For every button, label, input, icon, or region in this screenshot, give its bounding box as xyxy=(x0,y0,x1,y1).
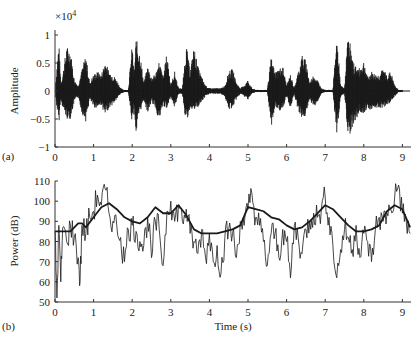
waveform-y-tick-label: 0 xyxy=(45,85,51,97)
waveform-x-tick-label: 2 xyxy=(129,151,135,163)
waveform-y-tick-label: 0.5 xyxy=(36,57,50,69)
power-x-tick-label: 8 xyxy=(361,306,367,318)
power-y-tick-label: 70 xyxy=(39,256,51,268)
waveform-x-tick-label: 0 xyxy=(52,151,58,163)
power-y-axis-label: Power (dB) xyxy=(8,215,21,266)
power-x-tick-label: 5 xyxy=(245,306,251,318)
figure: 10.50−0.5−1 0123456789 ×104 Amplitude (a… xyxy=(0,0,420,344)
waveform-plot-area xyxy=(55,41,410,133)
power-x-tick-label: 2 xyxy=(129,306,135,318)
power-plot-area xyxy=(55,184,410,298)
waveform-y-ticks: 10.50−0.5−1 xyxy=(30,29,58,153)
waveform-x-tick-label: 7 xyxy=(322,151,328,163)
waveform-panel: 10.50−0.5−1 0123456789 ×104 Amplitude (a… xyxy=(2,9,411,163)
waveform-x-tick-label: 9 xyxy=(400,151,406,163)
power-x-tick-label: 0 xyxy=(52,306,58,318)
waveform-y-tick-label: 1 xyxy=(45,29,51,41)
waveform-x-tick-label: 6 xyxy=(284,151,290,163)
panel-b-label: (b) xyxy=(2,320,15,333)
power-x-tick-label: 4 xyxy=(207,306,213,318)
power-instantaneous-line xyxy=(55,184,410,298)
waveform-x-tick-label: 1 xyxy=(91,151,97,163)
power-y-tick-label: 80 xyxy=(39,236,51,248)
waveform-x-tick-label: 5 xyxy=(245,151,251,163)
power-x-tick-label: 1 xyxy=(91,306,97,318)
waveform-y-axis-label: Amplitude xyxy=(8,67,20,114)
power-x-tick-label: 6 xyxy=(284,306,290,318)
power-x-tick-label: 9 xyxy=(400,306,406,318)
power-y-tick-label: 60 xyxy=(39,276,51,288)
power-y-tick-label: 50 xyxy=(39,296,51,308)
waveform-y-tick-label: −1 xyxy=(38,141,50,153)
waveform-x-tick-label: 4 xyxy=(207,151,213,163)
waveform-y-tick-label: −0.5 xyxy=(30,113,50,125)
waveform-x-tick-label: 3 xyxy=(168,151,174,163)
power-x-tick-label: 7 xyxy=(322,306,328,318)
power-x-tick-label: 3 xyxy=(168,306,174,318)
power-y-tick-label: 100 xyxy=(34,195,51,207)
power-y-tick-label: 110 xyxy=(34,175,51,187)
power-y-tick-label: 90 xyxy=(39,215,51,227)
power-panel: 1101009080706050 0123456789 Power (dB) T… xyxy=(2,175,411,333)
power-x-axis-label: Time (s) xyxy=(214,320,252,333)
waveform-x-tick-label: 8 xyxy=(361,151,367,163)
waveform-multiplier: ×104 xyxy=(55,9,76,22)
power-y-ticks: 1101009080706050 xyxy=(34,175,59,308)
panel-a-label: (a) xyxy=(2,150,15,163)
